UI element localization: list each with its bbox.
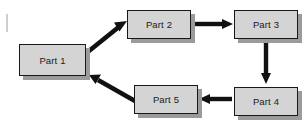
node-part2[interactable]: Part 2 xyxy=(127,10,191,39)
node-label-part2: Part 2 xyxy=(146,19,172,30)
node-part5[interactable]: Part 5 xyxy=(134,85,198,114)
arrow-part2-to-part3 xyxy=(192,19,233,29)
node-label-part3: Part 3 xyxy=(253,19,279,30)
diagram-canvas: Part 1 Part 2 Part 3 Part 4 Part 5 xyxy=(0,0,307,124)
node-part4[interactable]: Part 4 xyxy=(234,87,298,116)
arrow-part5-to-part1 xyxy=(89,75,135,102)
node-label-part1: Part 1 xyxy=(39,55,65,66)
arrow-part4-to-part5 xyxy=(199,94,232,104)
node-part3[interactable]: Part 3 xyxy=(234,10,298,39)
arrow-part3-to-part4 xyxy=(261,40,271,84)
node-part1[interactable]: Part 1 xyxy=(19,44,86,76)
node-label-part4: Part 4 xyxy=(253,96,279,107)
arrow-part1-to-part2 xyxy=(84,21,127,55)
node-label-part5: Part 5 xyxy=(153,94,179,105)
left-edge-artifact xyxy=(6,14,8,32)
